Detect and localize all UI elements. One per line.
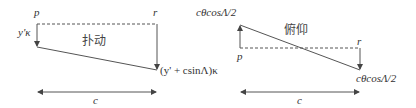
label-c-left: c — [93, 94, 98, 106]
label-top-left-right: cθcosΛ/2 — [196, 6, 236, 18]
label-p-left: p — [34, 6, 40, 18]
flapping-title: 扑动 — [82, 31, 106, 48]
pitching-title: 俯仰 — [284, 20, 308, 37]
label-y-kappa: y'κ — [18, 26, 31, 38]
label-r-right: r — [357, 35, 361, 47]
label-r-left: r — [153, 6, 157, 18]
label-p-right: p — [237, 50, 243, 62]
label-bottom-right-left: (y' + csinΛ)κ — [160, 64, 218, 76]
label-bottom-right-right: cθcosΛ/2 — [356, 72, 396, 84]
label-c-right: c — [297, 94, 302, 106]
